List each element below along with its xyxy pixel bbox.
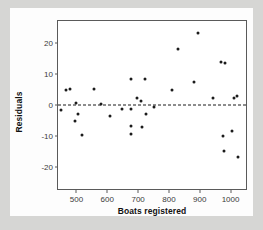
data-point <box>192 80 195 83</box>
chart-card: Residuals 20100-10-205006007008009001000… <box>10 8 253 216</box>
y-tick-label: -10 <box>23 132 58 141</box>
data-point <box>73 120 76 123</box>
data-point <box>130 133 133 136</box>
data-point <box>143 77 146 80</box>
y-axis-title: Residuals <box>14 91 24 132</box>
data-point <box>59 108 62 111</box>
y-tick-label: 20 <box>23 38 58 47</box>
data-point <box>68 88 71 91</box>
data-point <box>177 48 180 51</box>
data-point <box>81 134 84 137</box>
data-point <box>100 102 103 105</box>
x-tick-label: 1000 <box>211 195 251 204</box>
data-point <box>237 155 240 158</box>
x-tick-mark <box>107 189 108 193</box>
data-point <box>136 96 139 99</box>
data-point <box>196 31 199 34</box>
x-tick-mark <box>230 189 231 193</box>
data-point <box>120 108 123 111</box>
data-point <box>109 114 112 117</box>
y-tick-label: 0 <box>23 101 58 110</box>
data-point <box>170 89 173 92</box>
x-tick-mark <box>168 189 169 193</box>
data-point <box>77 113 80 116</box>
data-point <box>212 97 215 100</box>
data-point <box>129 124 132 127</box>
plot-area <box>58 21 246 189</box>
data-point <box>221 135 224 138</box>
x-tick-mark <box>138 189 139 193</box>
data-point <box>129 107 132 110</box>
data-point <box>153 105 156 108</box>
data-point <box>231 129 234 132</box>
x-tick-mark <box>199 189 200 193</box>
residual-plot-figure: Residuals 20100-10-205006007008009001000… <box>0 0 263 230</box>
plot-frame: 20100-10-205006007008009001000 <box>57 20 247 190</box>
x-axis-title: Boats registered <box>57 206 247 216</box>
y-tick-label: 10 <box>23 69 58 78</box>
data-point <box>144 113 147 116</box>
data-point <box>224 62 227 65</box>
data-point <box>235 95 238 98</box>
data-point <box>220 60 223 63</box>
data-point <box>222 150 225 153</box>
data-point <box>129 78 132 81</box>
data-point <box>65 89 68 92</box>
y-tick-label: -20 <box>23 163 58 172</box>
data-point <box>75 101 78 104</box>
data-point <box>92 88 95 91</box>
data-point <box>140 125 143 128</box>
x-tick-mark <box>76 189 77 193</box>
data-point <box>139 99 142 102</box>
